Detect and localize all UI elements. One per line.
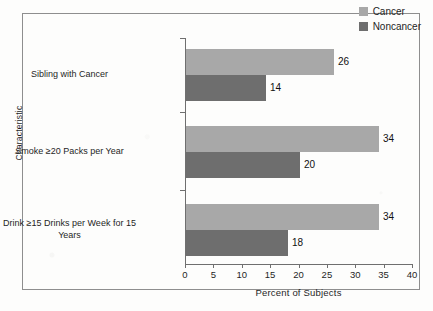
y-axis-title: Characteristic — [14, 78, 24, 188]
legend-item-cancer: Cancer — [359, 6, 421, 17]
legend-label-noncancer: Noncancer — [373, 21, 421, 32]
category-label-line-1: Sibling with Cancer — [31, 69, 108, 79]
y-axis-tick-top — [180, 38, 186, 39]
plot-area: 26 14 Sibling with Cancer 34 20 Smoke ≥2… — [185, 40, 412, 264]
x-axis-label-0: 0 — [182, 269, 187, 280]
x-axis-tick-25 — [327, 264, 328, 268]
x-axis-tick-30 — [355, 264, 356, 268]
chart-legend: Cancer Noncancer — [359, 6, 421, 32]
legend-swatch-noncancer — [359, 22, 368, 31]
bar-cancer-drink-per-week — [186, 204, 379, 230]
x-axis-tick-10 — [242, 264, 243, 268]
x-axis-label-30: 30 — [350, 269, 361, 280]
x-axis-label-20: 20 — [293, 269, 304, 280]
x-axis-tick-5 — [213, 264, 214, 268]
x-axis-title: Percent of Subjects — [185, 287, 412, 298]
bar-cancer-smoke-packs-per-year — [186, 126, 379, 152]
legend-item-noncancer: Noncancer — [359, 21, 421, 32]
category-label-smoke-packs-per-year: Smoke ≥20 Packs per Year — [0, 146, 157, 158]
bar-value-cancer-drink-per-week: 34 — [383, 204, 394, 230]
category-label-line-1: Drink ≥15 Drinks per Week for 15 — [3, 218, 136, 228]
bar-value-cancer-sibling-with-cancer: 26 — [338, 49, 349, 75]
y-axis-tick-group-2 — [180, 190, 186, 191]
bar-noncancer-drink-per-week — [186, 230, 288, 256]
x-axis-tick-35 — [384, 264, 385, 268]
category-label-drink-per-week: Drink ≥15 Drinks per Week for 15 Years — [0, 218, 157, 241]
x-axis-tick-40 — [412, 264, 413, 268]
bar-chart-figure: Cancer Noncancer Characteristic 26 14 Si… — [0, 0, 433, 311]
x-axis-tick-0 — [185, 264, 186, 268]
x-axis-label-5: 5 — [211, 269, 216, 280]
category-label-line-1: Smoke ≥20 Packs per Year — [15, 146, 124, 156]
y-axis-tick-group-1 — [180, 112, 186, 113]
x-axis-label-25: 25 — [322, 269, 333, 280]
bar-cancer-sibling-with-cancer — [186, 49, 334, 75]
bar-value-noncancer-drink-per-week: 18 — [292, 230, 303, 256]
legend-label-cancer: Cancer — [373, 6, 405, 17]
bar-value-noncancer-sibling-with-cancer: 14 — [270, 75, 281, 101]
category-label-sibling-with-cancer: Sibling with Cancer — [0, 69, 157, 81]
bar-noncancer-smoke-packs-per-year — [186, 152, 300, 178]
x-axis-label-40: 40 — [407, 269, 418, 280]
bar-value-cancer-smoke-packs-per-year: 34 — [383, 126, 394, 152]
bar-noncancer-sibling-with-cancer — [186, 75, 266, 101]
category-label-line-2: Years — [58, 230, 81, 240]
legend-swatch-cancer — [359, 7, 368, 16]
x-axis-tick-20 — [299, 264, 300, 268]
x-axis-tick-15 — [270, 264, 271, 268]
x-axis-label-35: 35 — [378, 269, 389, 280]
x-axis-label-15: 15 — [265, 269, 276, 280]
x-axis-label-10: 10 — [237, 269, 248, 280]
bar-value-noncancer-smoke-packs-per-year: 20 — [304, 152, 315, 178]
